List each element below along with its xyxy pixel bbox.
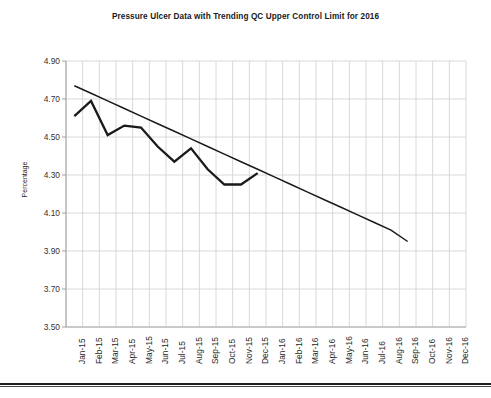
series-line-1 [74,86,407,242]
x-tick-label: Mar-16 [311,337,320,364]
x-tick-label: Mar-15 [111,337,120,364]
y-tick-label: 3.50 [20,322,60,332]
y-tick-label: 3.90 [20,246,60,256]
x-tick-label: Apr-16 [328,339,337,364]
x-tick-label: Jul-15 [178,341,187,364]
data-series-lines [74,86,407,242]
y-tick-label: 3.70 [20,284,60,294]
x-tick-label: Oct-16 [428,339,437,364]
x-tick-label: Feb-16 [295,337,304,364]
y-tick-label: 4.70 [20,94,60,104]
x-tick-label: Aug-15 [195,337,204,364]
x-tick-label: Nov-16 [445,337,454,364]
x-tick-label: Oct-15 [228,339,237,364]
y-tick-label: 4.50 [20,132,60,142]
page-divider-rule [0,383,491,385]
y-tick-label: 4.90 [20,56,60,66]
x-tick-label: Sep-15 [211,337,220,364]
x-tick-label: Aug-16 [395,337,404,364]
y-tick-label: 4.10 [20,208,60,218]
x-tick-label: Feb-15 [95,337,104,364]
x-tick-label: Nov-15 [245,337,254,364]
x-tick-label: Jan-16 [278,338,287,364]
chart-figure: Pressure Ulcer Data with Trending QC Upp… [0,0,491,398]
x-tick-label: Sep-16 [411,337,420,364]
grid-lines [66,61,466,327]
y-tick-label: 4.30 [20,170,60,180]
x-tick-label: Dec-15 [261,337,270,364]
x-tick-label: Jul-16 [378,341,387,364]
x-tick-label: Jan-15 [78,338,87,364]
x-tick-label: Jun-15 [161,338,170,364]
axis-lines [62,61,466,327]
x-tick-label: Dec-16 [461,337,470,364]
x-tick-label: May-15 [145,336,154,364]
x-tick-label: Jun-16 [361,338,370,364]
x-tick-label: Apr-15 [128,339,137,364]
page-divider-rule-secondary [0,386,491,387]
x-tick-label: May-16 [345,336,354,364]
